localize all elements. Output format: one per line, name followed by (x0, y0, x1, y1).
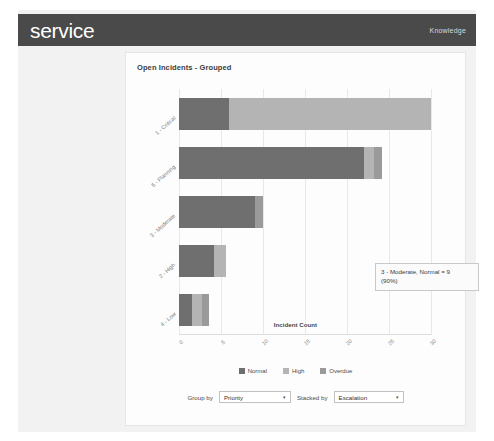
chart-bar-row[interactable]: 1 - Critical (179, 98, 431, 130)
chart-controls: Group by Priority ▾ Stacked by Escalatio… (126, 391, 465, 403)
x-tick-label: 25 (387, 338, 396, 347)
x-tick-label: 15 (303, 338, 312, 347)
group-by-select[interactable]: Priority ▾ (219, 391, 291, 403)
legend-swatch (239, 368, 245, 374)
app-logo: service (30, 20, 94, 41)
app-header: service Knowledge (18, 14, 476, 46)
bar-segment[interactable] (364, 147, 374, 179)
screenshot-root: service Knowledge Open Incidents - Group… (0, 0, 494, 441)
stacked-by-select[interactable]: Escalation ▾ (334, 391, 404, 403)
tooltip-line-2: (90%) (381, 277, 473, 286)
x-tick-label: 5 (220, 339, 226, 346)
legend-label: Overdue (329, 368, 352, 374)
chart-bar-row[interactable]: 5 - Planning (179, 147, 431, 179)
chart-x-axis (179, 334, 431, 335)
stacked-by-label: Stacked by (297, 394, 328, 401)
group-by-value: Priority (224, 394, 243, 401)
y-tick-label: 3 - Moderate (149, 213, 177, 239)
bar-segment[interactable] (179, 147, 364, 179)
bar-segment[interactable] (255, 196, 263, 228)
chevron-down-icon: ▾ (283, 395, 286, 400)
x-tick-label: 30 (429, 338, 438, 347)
stacked-by-value: Escalation (339, 394, 368, 401)
chart-bar-row[interactable]: 3 - Moderate (179, 196, 431, 228)
x-tick-label: 0 (178, 339, 184, 346)
bar-segment[interactable] (179, 98, 229, 130)
chevron-down-icon: ▾ (396, 395, 399, 400)
y-tick-label: 1 - Critical (154, 114, 177, 135)
chart-plot-area: 1 - Critical5 - Planning3 - Moderate2 - … (179, 89, 431, 335)
chart-card: Open Incidents - Grouped 1 - Critical5 -… (125, 52, 466, 426)
stacked-bar[interactable] (179, 245, 226, 277)
bar-segment[interactable] (179, 245, 214, 277)
bar-segment[interactable] (229, 98, 431, 130)
y-tick-label: 2 - High (158, 262, 177, 280)
tooltip-line-1: 3 - Moderate, Normal = 9 (381, 268, 473, 277)
x-tick-label: 20 (345, 338, 354, 347)
bar-segment[interactable] (214, 245, 226, 277)
chart-legend: NormalHighOverdue (126, 368, 465, 374)
y-tick-label: 5 - Planning (150, 164, 176, 188)
stacked-bar[interactable] (179, 196, 263, 228)
bar-segment[interactable] (374, 147, 382, 179)
nav-link-knowledge[interactable]: Knowledge (430, 27, 466, 34)
gridline (431, 89, 432, 335)
chart-x-axis-title: Incident Count (126, 321, 465, 328)
legend-swatch (320, 368, 326, 374)
stacked-bar[interactable] (179, 147, 382, 179)
legend-label: High (292, 368, 304, 374)
chart-tooltip: 3 - Moderate, Normal = 9 (90%) (375, 263, 479, 291)
legend-swatch (283, 368, 289, 374)
group-by-label: Group by (187, 394, 212, 401)
bar-segment[interactable] (179, 196, 255, 228)
stacked-bar[interactable] (179, 98, 431, 130)
x-tick-label: 10 (261, 338, 270, 347)
legend-item[interactable]: Overdue (320, 368, 352, 374)
legend-item[interactable]: Normal (239, 368, 267, 374)
chart-title: Open Incidents - Grouped (137, 63, 232, 72)
legend-item[interactable]: High (283, 368, 304, 374)
legend-label: Normal (248, 368, 267, 374)
